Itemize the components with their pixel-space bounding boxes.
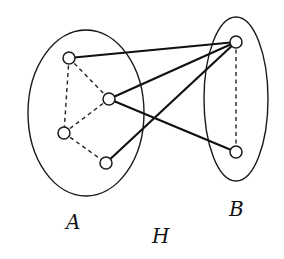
vertex-b1 (230, 36, 242, 48)
vertex-a2 (103, 93, 115, 105)
set-label-a: A (64, 210, 80, 234)
solid-edge-a2-b1 (109, 42, 236, 99)
solid-edge-a2-b2 (109, 99, 236, 152)
set-ellipse-a (28, 30, 144, 196)
labels: A B H (64, 197, 244, 248)
solid-edges-between-sets (69, 42, 236, 163)
dashed-edge-a1-a3 (64, 58, 69, 133)
bipartite-graph-diagram: A B H (0, 0, 284, 259)
dashed-edge-a2-a3 (64, 99, 109, 133)
graph-label-h: H (151, 224, 170, 248)
vertex-a4 (100, 157, 112, 169)
dashed-edges-within-sets (64, 42, 236, 163)
vertex-a1 (63, 52, 75, 64)
dashed-edge-a1-a2 (69, 58, 109, 99)
vertex-b2 (230, 146, 242, 158)
dashed-edge-a3-a4 (64, 133, 106, 163)
set-label-b: B (228, 197, 244, 221)
vertex-a3 (58, 127, 70, 139)
